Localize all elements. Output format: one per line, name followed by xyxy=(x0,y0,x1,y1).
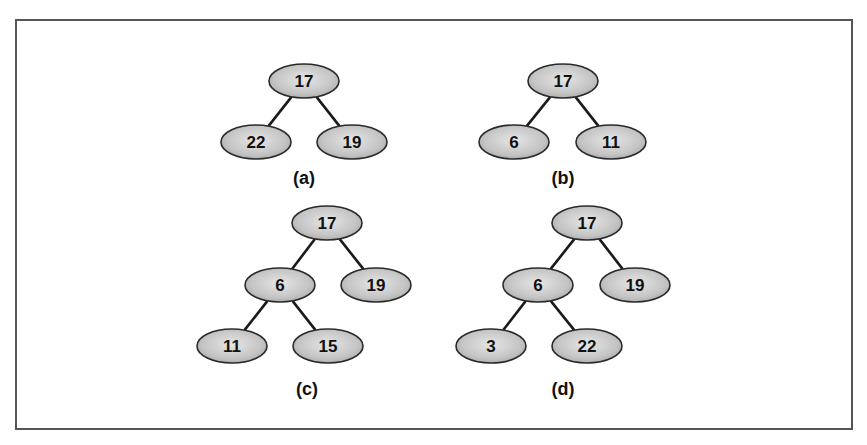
tree-node: 17 xyxy=(528,64,598,98)
node-label: 3 xyxy=(486,337,495,356)
tree-node: 17 xyxy=(292,206,362,240)
tree-edge xyxy=(575,97,598,126)
tree-node: 11 xyxy=(197,329,267,363)
tree-node: 19 xyxy=(600,268,670,302)
tree-edge xyxy=(503,301,525,330)
tree-node: 19 xyxy=(317,125,387,159)
node-label: 15 xyxy=(319,337,338,356)
node-label: 6 xyxy=(533,276,542,295)
node-label: 22 xyxy=(578,337,597,356)
tree-node: 15 xyxy=(293,329,363,363)
tree-node: 3 xyxy=(456,329,526,363)
tree-edge xyxy=(340,239,364,269)
node-label: 6 xyxy=(275,276,284,295)
tree-node: 6 xyxy=(503,268,573,302)
nodes-layer: 1722191761117619111517619322 xyxy=(197,64,670,363)
tree-edge xyxy=(244,301,267,330)
node-label: 11 xyxy=(602,133,620,152)
node-label: 19 xyxy=(626,276,645,295)
tree-node: 22 xyxy=(552,329,622,363)
tree-node: 22 xyxy=(221,125,291,159)
tree-edge xyxy=(268,97,291,126)
tree-node: 6 xyxy=(479,125,549,159)
node-label: 17 xyxy=(318,214,337,233)
node-label: 17 xyxy=(578,214,597,233)
tree-caption: (c) xyxy=(296,379,318,399)
node-label: 6 xyxy=(509,133,518,152)
tree-node: 19 xyxy=(341,268,411,302)
tree-edge xyxy=(551,239,575,269)
node-label: 17 xyxy=(295,72,314,91)
tree-node: 11 xyxy=(576,125,646,159)
trees-diagram: 1722191761117619111517619322 (a)(b)(c)(d… xyxy=(0,0,867,445)
tree-node: 17 xyxy=(552,206,622,240)
node-label: 19 xyxy=(367,276,386,295)
tree-edge xyxy=(292,239,315,269)
tree-node: 17 xyxy=(269,64,339,98)
node-label: 17 xyxy=(554,72,573,91)
tree-edge xyxy=(527,97,551,126)
tree-caption: (d) xyxy=(552,379,575,399)
tree-caption: (a) xyxy=(293,168,315,188)
tree-edge xyxy=(292,301,315,330)
node-label: 11 xyxy=(223,337,241,356)
tree-node: 6 xyxy=(245,268,315,302)
node-label: 19 xyxy=(343,133,362,152)
tree-edge xyxy=(316,97,339,126)
tree-edge xyxy=(599,239,622,269)
node-label: 22 xyxy=(247,133,266,152)
tree-edge xyxy=(551,301,575,330)
tree-caption: (b) xyxy=(552,168,575,188)
